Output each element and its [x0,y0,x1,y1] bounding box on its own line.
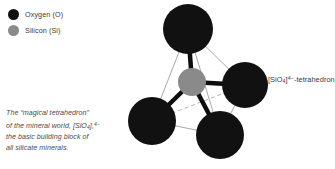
annotation-post: -tetrahedron [294,75,335,84]
silicate-tetrahedron-figure: Oxygen (O) Silicon (Si) The “magical tet… [0,0,335,169]
caption-line-1: The “magical tetrahedron” [6,108,132,119]
legend: Oxygen (O) Silicon (Si) [8,8,128,40]
atom-oxygen-bottom [196,111,244,159]
caption-formula-pre: of the mineral world, [SiO [6,122,87,130]
caption-line-2: of the mineral world, [SiO4],4− [6,119,132,133]
circle-icon [8,25,19,36]
legend-item-silicon: Silicon (Si) [8,24,128,37]
caption-formula-superscript: 4− [94,121,100,127]
caption-line-4: all silicate minerals. [6,143,132,154]
annotation-pre: [SiO [268,75,283,84]
circle-icon [8,9,19,20]
caption-line-3: the basic building block of [6,132,132,143]
atom-oxygen-lower-left [128,97,176,145]
figure-caption: The “magical tetrahedron” of the mineral… [6,108,132,153]
atom-oxygen-right [222,62,268,108]
tetrahedron-annotation: [SiO4]4−-tetrahedron [268,75,335,84]
legend-item-label: Silicon (Si) [25,25,61,36]
atom-oxygen-top [163,4,213,54]
atom-silicon-center [178,68,206,96]
legend-item-oxygen: Oxygen (O) [8,8,128,21]
legend-item-label: Oxygen (O) [25,9,63,20]
